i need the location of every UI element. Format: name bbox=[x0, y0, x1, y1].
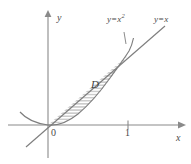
x-tick-label-1: 1 bbox=[125, 128, 130, 138]
x-axis bbox=[8, 122, 186, 129]
math-figure: y x 0 1 y=x2 y=x D bbox=[0, 0, 191, 164]
y-axis-label: y bbox=[57, 13, 61, 23]
curve-label-parabola-text: y=x bbox=[107, 14, 121, 24]
region-d-shading bbox=[48, 55, 128, 125]
curve-label-parabola: y=x2 bbox=[107, 15, 125, 24]
origin-label: 0 bbox=[51, 128, 56, 138]
curve-label-line: y=x bbox=[154, 15, 168, 24]
parabola-label-leader bbox=[124, 32, 126, 44]
x-axis-label: x bbox=[176, 133, 180, 143]
region-label-d: D bbox=[91, 79, 99, 90]
curve-label-parabola-exponent: 2 bbox=[121, 12, 124, 19]
